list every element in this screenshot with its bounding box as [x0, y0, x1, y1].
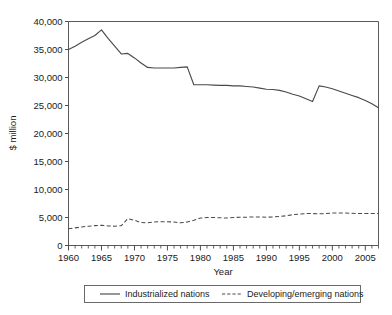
legend-label-2: Developing/emerging nations: [247, 289, 364, 299]
x-tick-label: 2005: [355, 252, 376, 263]
y-axis-title: $ million: [7, 116, 18, 151]
y-tick-label: 35,000: [33, 44, 62, 55]
x-tick-label: 1990: [256, 252, 277, 263]
plot-frame-border: [69, 22, 379, 246]
data-series-group: [69, 30, 379, 229]
x-tick-label: 1975: [157, 252, 178, 263]
chart-legend: Industrialized nationsDeveloping/emergin…: [85, 286, 365, 303]
line-chart-figure: 05,00010,00015,00020,00025,00030,00035,0…: [0, 0, 392, 315]
y-tick-label: 15,000: [33, 156, 62, 167]
y-tick-label: 10,000: [33, 184, 62, 195]
y-tick-label: 40,000: [33, 16, 62, 27]
x-tick-label: 1960: [58, 252, 79, 263]
y-tick-label: 25,000: [33, 100, 62, 111]
y-axis-tick-labels: 05,00010,00015,00020,00025,00030,00035,0…: [33, 16, 62, 251]
plot-frame: [69, 22, 379, 246]
x-axis-tick-labels: 1960196519701975198019851990199520002005: [58, 252, 376, 263]
x-tick-label: 1980: [190, 252, 211, 263]
y-axis-ticks: [65, 22, 69, 246]
x-axis-title: Year: [213, 266, 232, 277]
y-tick-label: 5,000: [39, 212, 63, 223]
x-tick-label: 1985: [223, 252, 244, 263]
legend-label-1: Industrialized nations: [125, 289, 210, 299]
x-axis-major-ticks: [69, 246, 366, 251]
y-tick-label: 30,000: [33, 72, 62, 83]
x-tick-label: 1965: [91, 252, 112, 263]
x-tick-label: 1970: [124, 252, 145, 263]
x-tick-label: 2000: [322, 252, 343, 263]
series-line-1: [69, 30, 379, 108]
y-tick-label: 0: [57, 240, 62, 251]
chart-svg: 05,00010,00015,00020,00025,00030,00035,0…: [0, 0, 392, 315]
series-line-2: [69, 213, 379, 229]
y-tick-label: 20,000: [33, 128, 62, 139]
x-tick-label: 1995: [289, 252, 310, 263]
